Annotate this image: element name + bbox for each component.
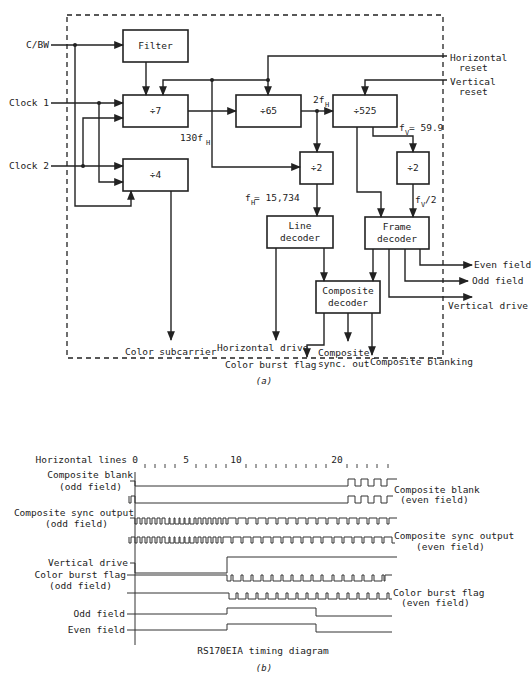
divide-by-65-block: ÷65 [236, 95, 301, 127]
label-fh: f [245, 192, 251, 203]
divide-by-525-label: ÷525 [354, 105, 377, 116]
tick-20: 20 [331, 454, 343, 465]
signal-fv: f V = 59.9 [399, 122, 444, 137]
signal-fh: f H = 15,734 [245, 192, 300, 207]
composite-decoder-label-1: Composite [322, 285, 374, 296]
label-fv2-suffix: /2 [425, 194, 436, 205]
composite-sync-label-1: Composite [318, 347, 370, 358]
composite-sync-even-label-2: (even field) [416, 541, 485, 552]
label-2fh: 2f [313, 94, 324, 105]
horizontal-reset-label-2: reset [459, 62, 488, 73]
composite-sync-label-2: sync. out [318, 358, 369, 369]
line-decoder-block: Line decoder [267, 216, 333, 248]
composite-decoder-label-2: decoder [328, 297, 368, 308]
filter-block: Filter [123, 30, 188, 62]
caption-b: (b) [256, 663, 272, 673]
divide-by-2-left-block: ÷2 [300, 152, 333, 184]
divide-by-65-label: ÷65 [260, 105, 277, 116]
label-130fh-sub: H [206, 139, 210, 147]
even-field-label-b: Even field [68, 624, 125, 635]
composite-blanking-label: Composite blanking [370, 356, 473, 367]
line-decoder-label-1: Line [289, 220, 312, 231]
block-diagram: Filter ÷7 ÷4 ÷65 ÷525 ÷2 ÷2 Line [9, 15, 531, 386]
divide-by-525-block: ÷525 [333, 95, 397, 127]
composite-blank-odd-label-2: (odd field) [59, 481, 122, 492]
waveform-composite-sync-even [129, 537, 395, 543]
signal-fv-half: f V /2 [415, 194, 436, 209]
odd-field-label-b: Odd field [74, 608, 125, 619]
odd-field-label: Odd field [472, 275, 523, 286]
clock2-wiring [51, 118, 123, 168]
caption-a: (a) [256, 376, 272, 386]
divide-by-4-block: ÷4 [123, 159, 188, 191]
label-130fh: 130f [180, 132, 203, 143]
color-burst-flag-label: Color burst flag [225, 359, 317, 370]
color-burst-odd-label-1: Color burst flag [34, 569, 126, 580]
waveform-composite-blank-odd [130, 479, 397, 486]
figure: Filter ÷7 ÷4 ÷65 ÷525 ÷2 ÷2 Line [0, 0, 532, 687]
tick-5: 5 [183, 454, 189, 465]
divide-by-7-label: ÷7 [150, 105, 161, 116]
waveform-vertical-drive [130, 557, 397, 573]
divide-by-2-left-label: ÷2 [311, 162, 322, 173]
div65-output-wiring [301, 109, 333, 152]
vertical-reset-label-2: reset [459, 86, 488, 97]
filter-label: Filter [138, 40, 173, 51]
waveform-composite-blank-even [129, 496, 393, 503]
vertical-drive-label: Vertical drive [448, 300, 528, 311]
waveform-odd-field [127, 608, 392, 616]
frame-decoder-label-1: Frame [383, 221, 412, 232]
waveform-even-field [127, 624, 392, 632]
timing-diagram: Horizontal lines 0 5 10 20 Composite bla… [14, 454, 514, 673]
vertical-drive-wire [389, 249, 472, 297]
composite-blank-odd-label-1: Composite blank [47, 469, 133, 480]
input-clock1-label: Clock 1 [9, 97, 49, 108]
tick-marks [145, 464, 388, 468]
composite-sync-odd-label-1: Composite sync output [14, 507, 134, 518]
frame-decoder-block: Frame decoder [365, 217, 429, 249]
line-decoder-label-2: decoder [280, 232, 320, 243]
divide-by-4-label: ÷4 [150, 169, 162, 180]
label-2fh-sub: H [325, 101, 329, 109]
waveform-color-burst-even [127, 593, 392, 599]
clock1-wiring [51, 101, 123, 182]
frame-decoder-label-2: decoder [377, 233, 417, 244]
vertical-reset-wiring: Vertical reset [365, 76, 496, 97]
input-cbw-label: C/BW [26, 39, 49, 50]
divide-by-7-block: ÷7 [123, 95, 188, 127]
composite-sync-odd-label-2: (odd field) [45, 518, 108, 529]
label-fh-value: = 15,734 [254, 192, 300, 203]
even-field-label: Even field [474, 259, 531, 270]
tick-0: 0 [132, 454, 138, 465]
waveform-composite-sync-odd [130, 518, 397, 524]
composite-sync-even-label-1: Composite sync output [394, 530, 514, 541]
even-field-wire [420, 249, 472, 265]
label-fv: f [399, 122, 405, 133]
color-burst-even-label-2: (even field) [401, 597, 470, 608]
tick-10: 10 [230, 454, 242, 465]
label-fv-value: = 59.9 [409, 122, 444, 133]
composite-blank-even-label-2: (even field) [400, 494, 469, 505]
color-burst-odd-label-2: (odd field) [49, 580, 112, 591]
input-clock2-label: Clock 2 [9, 160, 49, 171]
label-fv2: f [415, 194, 421, 205]
timing-diagram-title: RS170EIA timing diagram [197, 645, 329, 656]
color-subcarrier-label: Color subcarrier [125, 346, 217, 357]
horizontal-drive-label: Horizontal drive [217, 342, 309, 353]
vertical-drive-label-b: Vertical drive [48, 557, 128, 568]
signal-2fh: 2f H [313, 94, 329, 109]
axis-label: Horizontal lines [35, 454, 127, 465]
rs170-sync-generator-figure: Filter ÷7 ÷4 ÷65 ÷525 ÷2 ÷2 Line [0, 0, 532, 687]
divide-by-2-right-block: ÷2 [397, 152, 429, 184]
waveform-color-burst-odd [127, 575, 392, 581]
signal-130fh: 130f H [180, 132, 210, 147]
divide-by-2-right-label: ÷2 [407, 162, 418, 173]
composite-decoder-block: Composite decoder [316, 281, 380, 313]
